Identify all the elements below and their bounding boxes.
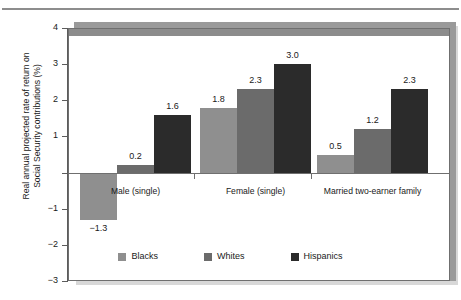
category-separator-tick [194, 174, 195, 179]
value-label: 1.6 [148, 102, 197, 111]
value-label: 3.0 [268, 51, 317, 60]
bar-whites-0 [117, 165, 154, 172]
y-tick-mark [62, 64, 68, 65]
bar-blacks-2 [317, 155, 354, 173]
value-label: 0.5 [311, 142, 360, 151]
y-axis-title-line2: Social Security contributions (%) [32, 21, 43, 231]
bar-whites-2 [354, 129, 391, 172]
y-tick-mark [62, 281, 68, 282]
panel-top-band [69, 29, 449, 36]
y-tick-mark [62, 100, 68, 101]
bar-blacks-1 [200, 108, 237, 173]
value-label: 1.8 [194, 95, 243, 104]
bar-blacks-0 [80, 173, 117, 220]
y-axis-line [67, 28, 68, 281]
y-tick-mark [62, 209, 68, 210]
y-tick-label: −3 [18, 276, 58, 285]
bar-hispanics-0 [154, 115, 191, 173]
value-label: 0.2 [111, 152, 160, 161]
y-tick-mark [62, 136, 68, 137]
y-axis-title: Real annual projected rate of return on … [21, 21, 43, 231]
value-label: −1.3 [74, 224, 123, 233]
chart-figure: 4321−1−2−3 Real annual projected rate of… [0, 0, 461, 300]
y-tick-mark [62, 173, 68, 174]
y-tick-mark [62, 245, 68, 246]
value-label: 1.2 [348, 116, 397, 125]
value-label: 2.3 [231, 76, 280, 85]
y-tick-mark [62, 28, 68, 29]
bar-hispanics-2 [391, 89, 428, 172]
page-top-rule [2, 8, 459, 10]
y-tick-label: −2 [18, 240, 58, 249]
category-label: Married two-earner family [287, 186, 458, 196]
value-label: 2.3 [385, 76, 434, 85]
zero-baseline [69, 173, 449, 174]
category-separator-tick [311, 174, 312, 179]
y-axis-title-line1: Real annual projected rate of return on [21, 21, 32, 231]
